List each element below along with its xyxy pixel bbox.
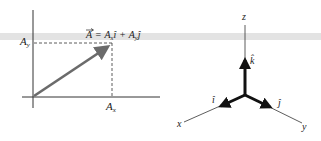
i-hat-label: î: [212, 94, 216, 105]
k-hat-label: k̂: [250, 54, 255, 66]
vector-a-arrow: [34, 48, 106, 96]
ax-label: Ax: [105, 100, 117, 114]
z-axis-label: z: [241, 11, 246, 22]
x-axis-label: x: [176, 118, 182, 129]
svg-text:A = Axî: A = Axî + Ayĵ: [85, 29, 142, 41]
ay-label: Ay: [19, 35, 31, 49]
i-hat-arrow: [221, 95, 245, 106]
j-hat-arrow: [245, 95, 270, 107]
component-diagram: Ay Ax A = Axî + Ayĵ: [19, 10, 160, 114]
unit-vector-diagram: z x y k̂ î ĵ: [176, 11, 307, 132]
vector-equation: A = Axî + Ayĵ: [85, 29, 142, 42]
diagram-canvas: Ay Ax A = Axî + Ayĵ z x y k̂ î ĵ: [0, 0, 321, 141]
j-hat-label: ĵ: [276, 97, 282, 108]
y-axis-label: y: [301, 121, 307, 132]
